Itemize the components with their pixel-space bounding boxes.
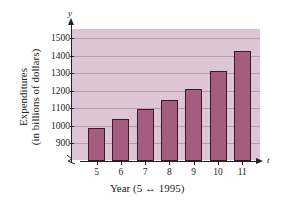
y-tick-label: 900 (38, 138, 70, 148)
y-tick-label: 1000 (38, 121, 70, 131)
bar-8 (161, 100, 178, 161)
x-tick-label: 11 (232, 167, 252, 177)
x-tick (194, 161, 195, 165)
y-tick-label: 1400 (38, 51, 70, 61)
x-tick-label: 9 (184, 167, 204, 177)
x-tick (145, 161, 146, 165)
x-tick-label: 5 (87, 167, 107, 177)
gridline (72, 56, 260, 57)
bar-5 (88, 128, 105, 161)
x-tick-label: 8 (159, 167, 179, 177)
y-axis-arrow-icon (68, 18, 74, 25)
y-axis-label-line2: (in billions of dollars) (29, 22, 41, 172)
y-axis-symbol: y (68, 8, 72, 18)
x-tick-label: 6 (111, 167, 131, 177)
y-axis-label: Expenditures (in billions of dollars) (17, 22, 41, 172)
y-tick-label: 1300 (38, 68, 70, 78)
x-tick (121, 161, 122, 165)
x-axis-label: Year (5 ↔ 1995) (110, 182, 184, 194)
bar-6 (112, 119, 129, 161)
bar-7 (137, 109, 154, 161)
x-tick (169, 161, 170, 165)
bar-9 (185, 89, 202, 161)
y-tick-label: 1200 (38, 86, 70, 96)
gridline (72, 91, 260, 92)
x-tick-label: 10 (208, 167, 228, 177)
y-axis (71, 22, 72, 162)
x-tick (242, 161, 243, 165)
bar-10 (210, 71, 227, 161)
axis-break-icon (66, 153, 78, 165)
x-axis-symbol: t (267, 155, 270, 165)
y-tick-label: 1500 (38, 33, 70, 43)
x-tick-label: 7 (135, 167, 155, 177)
x-tick (97, 161, 98, 165)
y-axis-label-line1: Expenditures (17, 22, 29, 172)
x-tick (218, 161, 219, 165)
gridline (72, 73, 260, 74)
y-tick-label: 1100 (38, 103, 70, 113)
x-axis-arrow-icon (256, 158, 263, 164)
gridline (72, 38, 260, 39)
bar-11 (234, 51, 251, 161)
